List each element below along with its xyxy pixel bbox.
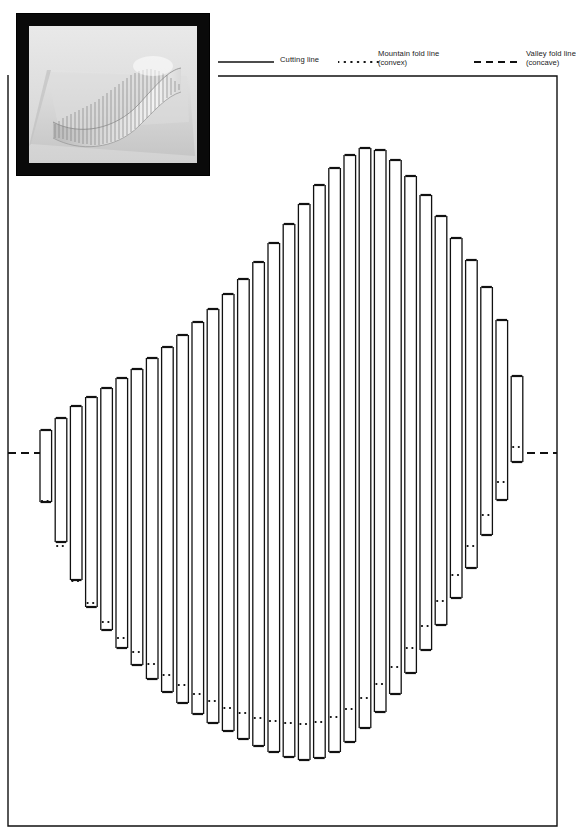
strip	[207, 309, 219, 723]
strip	[405, 176, 417, 673]
strip	[268, 243, 280, 752]
strip	[192, 322, 204, 714]
strip	[496, 320, 508, 500]
strip	[450, 238, 462, 598]
strip	[435, 216, 447, 625]
strip	[390, 160, 402, 694]
strip	[40, 430, 52, 502]
strip	[359, 148, 371, 728]
strip	[101, 388, 113, 630]
strip	[283, 224, 295, 757]
strip	[253, 262, 265, 746]
strip	[344, 155, 356, 742]
strip	[131, 369, 143, 665]
strip	[374, 150, 386, 712]
strip	[420, 195, 432, 650]
strip	[146, 358, 158, 679]
strip	[329, 168, 341, 752]
strip	[70, 406, 82, 581]
strip	[86, 397, 98, 607]
strip	[177, 335, 189, 703]
strip	[511, 376, 523, 462]
strip	[314, 185, 326, 758]
strip	[466, 260, 478, 568]
strip	[162, 347, 174, 692]
strip	[481, 287, 493, 535]
strip	[238, 279, 250, 739]
strip-group	[40, 148, 523, 760]
strip	[222, 294, 234, 731]
strip	[298, 204, 310, 760]
strip	[116, 378, 128, 648]
strip	[55, 418, 67, 546]
